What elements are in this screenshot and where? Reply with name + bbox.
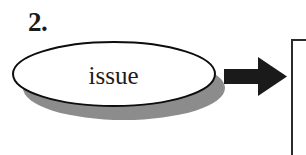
step-number-label: 2. xyxy=(28,9,47,36)
next-node-box[interactable] xyxy=(292,40,306,155)
issue-node-label: issue xyxy=(61,63,166,88)
right-arrow-icon xyxy=(224,57,287,96)
diagram-canvas: 2. issue xyxy=(0,0,306,155)
